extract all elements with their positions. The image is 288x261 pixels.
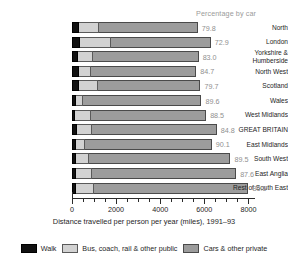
table-row [72, 22, 198, 33]
bar-segment [79, 80, 98, 91]
table-row [72, 139, 212, 150]
bar-segment [111, 37, 211, 48]
axis-tick-label: 4000 [152, 205, 168, 214]
legend-swatch-walk [21, 244, 37, 253]
axis-tick-minor [226, 199, 227, 202]
category-label: West Midlands [220, 111, 288, 118]
chart-legend: WalkBus, coach, rail & other publicCars … [0, 240, 288, 256]
table-row [72, 168, 236, 179]
bar-segment [80, 37, 111, 48]
legend-label: Walk [41, 244, 57, 253]
axis-tick-minor [193, 199, 194, 202]
table-row [72, 37, 211, 48]
category-label: Wales [220, 97, 288, 104]
bar-segment [91, 110, 207, 121]
category-label: Scotland [220, 82, 288, 89]
legend-label: Bus, coach, rail & other public [82, 244, 177, 253]
bar-segment [72, 37, 80, 48]
legend-label: Cars & other private [203, 244, 267, 253]
axis-tick-major [160, 199, 161, 204]
axis-tick-minor [94, 199, 95, 202]
axis-tick-minor [138, 199, 139, 202]
table-row [72, 51, 199, 62]
bar-segment [72, 22, 79, 33]
axis-tick-label: 8000 [240, 205, 256, 214]
axis-tick-label: 6000 [196, 205, 212, 214]
value-label: 79.7 [204, 82, 218, 91]
table-row [72, 153, 230, 164]
bar-segment [83, 95, 201, 106]
value-label: 89.5 [234, 155, 248, 164]
legend-item[interactable]: Cars & other private [183, 244, 267, 253]
value-label: 72.9 [215, 38, 229, 47]
axis-tick-minor [105, 199, 106, 202]
bar-segment [76, 183, 94, 194]
bar-segment [89, 153, 231, 164]
bar-segment [76, 168, 91, 179]
legend-item[interactable]: Bus, coach, rail & other public [62, 244, 177, 253]
bar-segment [92, 124, 217, 135]
bar-chart: Percentage by car NorthLondonYorkshire &… [0, 0, 288, 261]
table-row [72, 124, 217, 135]
value-label: 89.6 [205, 97, 219, 106]
bar-segment [77, 124, 92, 135]
bar-segment [91, 66, 197, 77]
bar-segment [99, 22, 198, 33]
axis-tick-major [116, 199, 117, 204]
bar-segment [79, 66, 91, 77]
category-label: London [220, 38, 288, 45]
bar-segment [78, 51, 93, 62]
table-row [72, 80, 200, 91]
category-label: East Midlands [220, 141, 288, 148]
axis-tick-major [248, 199, 249, 204]
bar-segment [76, 153, 88, 164]
axis-tick-minor [182, 199, 183, 202]
value-label: 84.7 [200, 67, 214, 76]
value-label: 90.1 [216, 140, 230, 149]
axis-tick-minor [149, 199, 150, 202]
percentage-by-car-header: Percentage by car [196, 9, 256, 18]
bar-segment [93, 51, 198, 62]
x-axis-title: Distance travelled per person per year (… [0, 217, 288, 226]
bar-segment [92, 168, 236, 179]
axis-tick-minor [215, 199, 216, 202]
bar-segment [79, 22, 99, 33]
table-row [72, 66, 196, 77]
axis-tick-major [204, 199, 205, 204]
bar-segment [85, 139, 212, 150]
legend-item[interactable]: Walk [21, 244, 57, 253]
axis-tick-minor [127, 199, 128, 202]
bar-segment [76, 139, 84, 150]
axis-tick-minor [171, 199, 172, 202]
bar-segment [72, 80, 79, 91]
legend-swatch-private [183, 244, 199, 253]
table-row [72, 95, 201, 106]
category-label: North [220, 24, 288, 31]
value-label: 87.6 [240, 170, 254, 179]
axis-tick-label: 0 [70, 205, 74, 214]
value-label: 84.8 [221, 126, 235, 135]
bar-segment [76, 95, 84, 106]
value-label: 88.5 [210, 111, 224, 120]
legend-swatch-public [62, 244, 78, 253]
bar-segment [98, 80, 200, 91]
axis-tick-minor [83, 199, 84, 202]
bar-segment [75, 110, 90, 121]
x-axis-line [72, 198, 255, 199]
axis-tick-major [72, 199, 73, 204]
bar-segment [72, 66, 79, 77]
value-label: 86.5 [252, 184, 266, 193]
value-label: 83.0 [203, 53, 217, 62]
category-label: North West [220, 68, 288, 75]
table-row [72, 110, 206, 121]
category-label: South West [220, 155, 288, 162]
value-label: 79.8 [202, 24, 216, 33]
axis-tick-label: 2000 [108, 205, 124, 214]
axis-tick-minor [237, 199, 238, 202]
category-label: Yorkshire & Humberside [220, 49, 288, 64]
